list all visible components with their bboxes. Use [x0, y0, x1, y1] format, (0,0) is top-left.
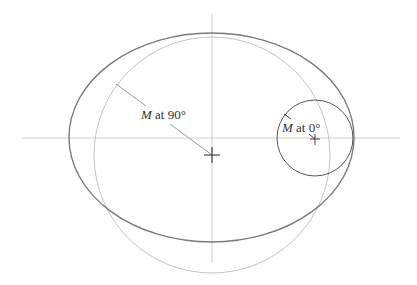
- orbit-diagram: M at 90° M at 0°: [0, 0, 417, 285]
- diagram-svg: M at 90° M at 0°: [0, 0, 417, 285]
- center-cross-icon: [204, 147, 220, 163]
- radius-line-0-tick: [284, 114, 291, 119]
- label-m-at-90-text: at 90°: [152, 107, 186, 122]
- radius-line-90-upper: [116, 84, 146, 106]
- label-m-at-90: M at 90°: [140, 107, 186, 122]
- label-m-at-0: M at 0°: [281, 120, 320, 135]
- radius-line-90-lower: [170, 124, 212, 155]
- label-m-at-0-text: at 0°: [293, 120, 321, 135]
